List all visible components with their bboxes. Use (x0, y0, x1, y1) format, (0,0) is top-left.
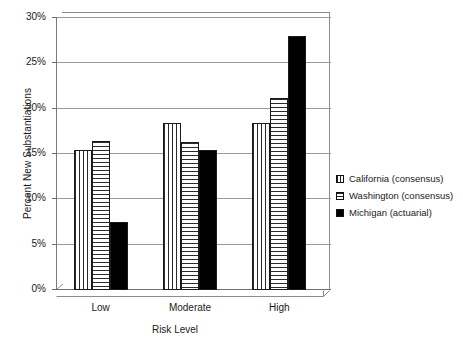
y-tick-label: 0% (0, 283, 46, 294)
y-tick-label: 20% (0, 102, 46, 113)
chart-legend: California (consensus)Washington (consen… (336, 170, 463, 221)
bar-low-cal (74, 150, 92, 290)
y-tick-label: 25% (0, 56, 46, 67)
y-tick-label: 10% (0, 192, 46, 203)
x-tick-label: High (269, 302, 290, 313)
legend-item: Michigan (actuarial) (336, 204, 463, 221)
bar-moderate-cal (163, 123, 181, 290)
x-tick-label: Moderate (169, 302, 211, 313)
bar-high-wash (270, 98, 288, 290)
bar-high-cal (252, 123, 270, 290)
legend-swatch-mich (336, 209, 344, 217)
legend-swatch-wash (336, 192, 344, 200)
y-tick-label: 5% (0, 238, 46, 249)
bars-layer (56, 18, 324, 290)
legend-label: Michigan (actuarial) (349, 207, 432, 218)
bar-moderate-mich (199, 150, 217, 290)
legend-label: California (consensus) (349, 173, 444, 184)
legend-label: Washington (consensus) (349, 190, 453, 201)
y-tick-label: 30% (0, 11, 46, 22)
bar-high-mich (288, 36, 306, 290)
plot-area (56, 12, 332, 296)
x-axis-title: Risk Level (0, 324, 350, 335)
x-tick-label: Low (91, 302, 109, 313)
bar-low-wash (92, 141, 110, 290)
legend-item: Washington (consensus) (336, 187, 463, 204)
bar-moderate-wash (181, 142, 199, 290)
bar-low-mich (110, 222, 128, 290)
bar-chart: Percent New Substantiations 0%5%10%15%20… (0, 0, 463, 341)
chart-floor-strip (56, 289, 331, 297)
legend-swatch-cal (336, 175, 344, 183)
legend-item: California (consensus) (336, 170, 463, 187)
y-tick-label: 15% (0, 147, 46, 158)
